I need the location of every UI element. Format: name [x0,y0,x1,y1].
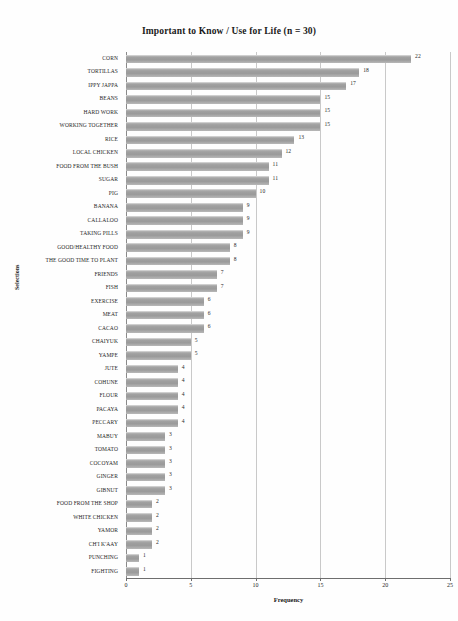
category-label: PIG [0,187,122,200]
bar [126,365,178,374]
x-tick-label-10: 10 [253,582,259,588]
bar-row: 8 [126,241,450,254]
bar-value-label: 9 [247,229,250,235]
category-label: GINGER [0,470,122,483]
bar-value-label: 6 [208,310,211,316]
bar-value-label: 5 [195,337,198,343]
bar-row: 6 [126,295,450,308]
bar-value-label: 15 [324,107,330,113]
bar-row: 2 [126,538,450,551]
bar [126,122,320,131]
bar [126,500,152,509]
bar-value-label: 15 [324,121,330,127]
bar-row: 10 [126,187,450,200]
chart-title: Important to Know / Use for Life (n = 30… [0,26,458,36]
bar [126,284,217,293]
category-label: YAMPE [0,349,122,362]
bar-row: 18 [126,65,450,78]
category-label: BEANS [0,92,122,105]
category-label: COCOYAM [0,457,122,470]
y-axis-title: Selections [14,265,20,290]
category-label: SUGAR [0,173,122,186]
bar [126,203,243,212]
bar-row: 2 [126,524,450,537]
bar-row: 15 [126,106,450,119]
category-label: FOOD FROM THE SHOP [0,497,122,510]
bar-row: 6 [126,322,450,335]
bar-value-label: 17 [350,80,356,86]
bar-value-label: 1 [143,552,146,558]
bar-row: 5 [126,349,450,362]
x-axis-line [126,578,451,579]
bar-row: 2 [126,497,450,510]
bar-row: 4 [126,376,450,389]
category-label: WHITE CHICKEN [0,511,122,524]
bar [126,338,191,347]
category-label: COHUNE [0,376,122,389]
category-label: GOOD/HEALTHY FOOD [0,241,122,254]
x-tick-label-5: 5 [189,582,192,588]
category-label: CHAIYUK [0,335,122,348]
bar-row: 4 [126,403,450,416]
bar-row: 9 [126,214,450,227]
category-label: WORKING TOGETHER [0,119,122,132]
category-label: LOCAL CHICKEN [0,146,122,159]
bar-value-label: 2 [156,525,159,531]
bar [126,162,269,171]
category-label: RICE [0,133,122,146]
gridline-25 [450,52,451,578]
bar [126,270,217,279]
x-tick-mark-25 [450,578,451,581]
bar-row: 2 [126,511,450,524]
category-label: CALLALOO [0,214,122,227]
bar-value-label: 4 [182,377,185,383]
category-label: PUNCHING [0,551,122,564]
x-axis-tick-labels: 0510152025 [0,582,458,594]
bar [126,432,165,441]
x-tick-mark-15 [320,578,321,581]
bar [126,419,178,428]
bar-row: 11 [126,173,450,186]
bar-value-label: 3 [169,431,172,437]
bar-row: 7 [126,281,450,294]
bar-value-label: 6 [208,323,211,329]
plot-area: 2218171515151312111110999887766655444443… [126,52,450,578]
bar [126,446,165,455]
bar-row: 9 [126,200,450,213]
bar-value-label: 9 [247,202,250,208]
bar [126,473,165,482]
bar-value-label: 2 [156,512,159,518]
bar-row: 15 [126,92,450,105]
category-label: PACAYA [0,403,122,416]
bar-value-label: 2 [156,539,159,545]
bar [126,554,139,563]
category-label: BANANA [0,200,122,213]
bar-chart-figure: Important to Know / Use for Life (n = 30… [0,0,458,621]
x-tick-label-15: 15 [317,582,323,588]
bar [126,459,165,468]
bar [126,149,282,158]
bar-value-label: 7 [221,283,224,289]
bar [126,378,178,387]
bar-row: 15 [126,119,450,132]
bar-row: 17 [126,79,450,92]
category-label: MABUY [0,430,122,443]
bar [126,513,152,522]
bar [126,176,269,185]
bar-value-label: 11 [273,161,278,167]
bar-row: 11 [126,160,450,173]
bar [126,297,204,306]
x-tick-mark-5 [191,578,192,581]
category-label: TOMATO [0,443,122,456]
category-label: TORTILLAS [0,65,122,78]
category-label: FIGHTING [0,565,122,578]
category-label: FOOD FROM THE BUSH [0,160,122,173]
bar-row: 4 [126,389,450,402]
bar-value-label: 3 [169,458,172,464]
bar-row: 3 [126,430,450,443]
bar-value-label: 13 [298,134,304,140]
bar-row: 9 [126,227,450,240]
bar-value-label: 7 [221,269,224,275]
x-tick-mark-10 [256,578,257,581]
bar-row: 22 [126,52,450,65]
